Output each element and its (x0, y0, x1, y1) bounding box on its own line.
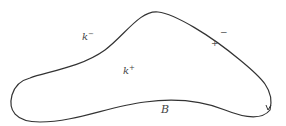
k-sup-plus: + (129, 64, 135, 72)
label-k-plus: k+ (123, 65, 135, 76)
label-k-minus: k− (82, 31, 94, 42)
boundary-minus-sign: − (220, 28, 228, 37)
diagram-canvas (0, 0, 286, 126)
boundary-plus-sign: + (211, 39, 219, 48)
curve-label-b: B (161, 104, 169, 115)
k-sup-minus: − (88, 30, 94, 38)
closed-curve-b (11, 12, 271, 122)
